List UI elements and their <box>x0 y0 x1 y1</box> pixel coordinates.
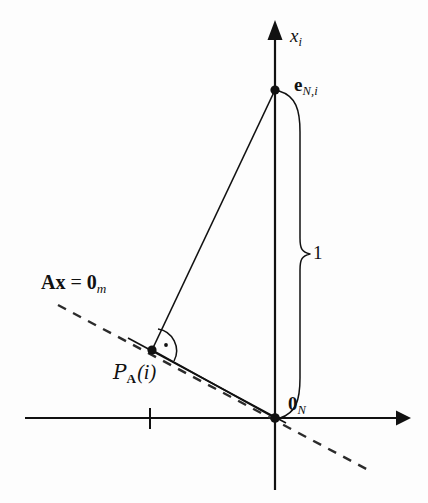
point-label-e-vector-subscript: N,i <box>302 84 318 98</box>
right-angle-dot <box>164 343 168 347</box>
figure-root: xi eN,i 1 Ax=0m PA(i) 0N <box>0 0 428 503</box>
axis-label-xi-subscript: i <box>298 35 302 49</box>
origin-label-subscript: N <box>298 403 307 417</box>
point-label-projection: PA(i) <box>113 362 156 385</box>
unit-length-brace <box>279 91 310 418</box>
point-marker-projection <box>147 345 156 354</box>
point-marker-e-vector <box>270 85 279 94</box>
nullspace-label-subscript: m <box>97 281 107 296</box>
projection-label-subscript-a: A <box>126 371 136 386</box>
nullspace-label-zero: 0 <box>87 271 97 293</box>
point-label-origin: 0N <box>288 394 306 417</box>
brace-path <box>279 91 310 418</box>
segment-projection-to-origin <box>152 350 275 418</box>
nullspace-label-equals: = <box>65 271 86 293</box>
projection-diagram-canvas <box>0 0 428 503</box>
projection-label-script-p: P <box>113 360 126 384</box>
horizontal-axis-arrowhead <box>396 411 411 426</box>
nullspace-label-matrix-a: A <box>41 271 55 293</box>
horizontal-axis <box>25 408 411 429</box>
axis-label-xi: xi <box>290 26 302 49</box>
nullspace-dashed-line <box>58 305 372 472</box>
point-marker-origin <box>270 413 280 423</box>
projection-label-argument: (i) <box>136 361 156 383</box>
brace-label-one: 1 <box>313 243 323 262</box>
origin-label-base: 0 <box>288 393 298 414</box>
vertical-axis-arrowhead <box>268 20 283 40</box>
nullspace-line-label: Ax=0m <box>41 272 106 295</box>
nullspace-label-vector-x: x <box>55 271 65 293</box>
segment-e-to-projection <box>152 90 275 350</box>
point-label-e-vector: eN,i <box>294 75 318 98</box>
